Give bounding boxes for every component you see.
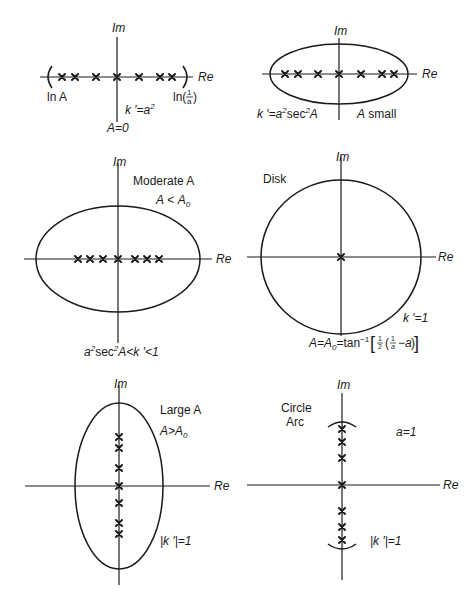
- formula-tail: −a: [398, 336, 412, 350]
- panel-moderate-a: Im Re Moderate A A < A0 a2sec2A<k ′<1: [24, 155, 232, 359]
- panel-title: Large A: [160, 403, 201, 417]
- condition-label: A=0: [106, 121, 129, 135]
- kprime-range-label: a2sec2A<k ′<1: [84, 344, 159, 359]
- half-num: 1: [378, 335, 382, 342]
- panel-title: Moderate A: [133, 174, 194, 188]
- kprime-label: k ′=a2sec2A: [257, 106, 318, 121]
- im-label: Im: [334, 24, 347, 38]
- im-label: Im: [336, 150, 349, 164]
- half-den: 2: [378, 343, 382, 350]
- panel-a-small: Im Re k ′=a2sec2A A small: [257, 24, 438, 121]
- re-label: Re: [216, 252, 232, 266]
- right-end-label: ln(: [173, 90, 186, 104]
- kprime-label: k ′=1: [403, 311, 428, 325]
- panel-title: Disk: [263, 172, 287, 186]
- zero-locus-figure: Im Re ln A ln( 1 a ) k ′=a2 A=0 Im Re: [0, 0, 474, 597]
- open-paren: (: [385, 336, 389, 350]
- inv-den: a: [391, 343, 395, 350]
- right-end-fraction-den: a: [187, 97, 192, 106]
- condition-label: A < A0: [155, 193, 191, 209]
- im-label: Im: [113, 155, 126, 169]
- right-bracket: ]: [414, 333, 419, 353]
- panel-large-a: Im Re Large A A>A0 |k ′|=1: [25, 377, 230, 585]
- a-value-label: a=1: [396, 425, 416, 439]
- left-end-label: ln A: [47, 90, 67, 104]
- condition-label: A>A0: [159, 424, 188, 440]
- re-label: Re: [214, 479, 230, 493]
- kprime-label: |k ′|=1: [160, 534, 192, 548]
- re-label: Re: [198, 70, 214, 84]
- kprime-label: k ′=a2: [125, 102, 155, 117]
- re-label: Re: [422, 67, 438, 81]
- panel-circle-arc: Im Re Circle Arc a=1 |k ′|=1: [247, 378, 459, 580]
- panel-title-line2: Arc: [286, 415, 304, 429]
- condition-label: A small: [356, 107, 396, 121]
- re-label: Re: [443, 478, 459, 492]
- panel-title-line1: Circle: [281, 401, 312, 415]
- im-label: Im: [114, 377, 127, 391]
- kprime-label: |k ′|=1: [370, 534, 402, 548]
- inv-num: 1: [391, 335, 395, 342]
- im-label: Im: [112, 21, 125, 35]
- right-end-close: ): [193, 90, 197, 104]
- right-end-fraction-num: 1: [187, 88, 192, 97]
- im-label: Im: [337, 378, 350, 392]
- a0-formula: A=A0=tan−1: [308, 335, 370, 352]
- re-label: Re: [438, 250, 454, 264]
- left-bracket: [: [370, 333, 375, 353]
- panel-a-zero: Im Re ln A ln( 1 a ) k ′=a2 A=0: [40, 21, 214, 135]
- panel-disk: Im Re Disk k ′=1 A=A0=tan−1 [ 1 2 ( 1 a …: [247, 150, 454, 353]
